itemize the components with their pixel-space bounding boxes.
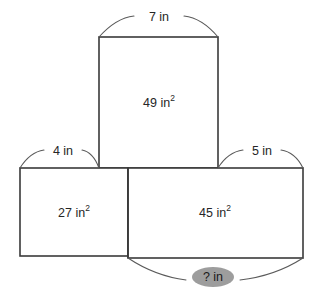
bottom-right-area-unit: in <box>216 206 226 220</box>
bottom-left-area-exponent: 2 <box>85 203 90 213</box>
bottom-right-area-exponent: 2 <box>226 203 231 213</box>
left-width-brace-right <box>82 150 99 168</box>
geometry-diagram: 7 in 4 in 5 in 49 in2 27 in2 45 in2 ? in <box>0 0 321 305</box>
top-area-unit: in <box>160 96 170 110</box>
diagram-canvas: 7 in 4 in 5 in 49 in2 27 in2 45 in2 ? in <box>0 0 321 305</box>
bottom-left-area-unit: in <box>75 206 85 220</box>
right-width-label: 5 in <box>252 144 272 158</box>
top-area-exponent: 2 <box>170 93 175 103</box>
top-area-value: 49 <box>143 96 157 110</box>
unknown-width-label: ? in <box>203 270 223 284</box>
top-width-label: 7 in <box>149 10 169 24</box>
bottom-unknown-brace-left <box>128 258 186 280</box>
right-width-brace-left <box>218 150 243 168</box>
top-width-brace-left <box>99 16 134 37</box>
bottom-left-area-value: 27 <box>58 206 72 220</box>
bottom-right-area-value: 45 <box>199 206 213 220</box>
bottom-unknown-brace-right <box>240 258 303 280</box>
left-width-label: 4 in <box>53 144 73 158</box>
left-width-brace-left <box>20 150 44 168</box>
right-width-brace-right <box>281 150 303 168</box>
top-width-brace-right <box>184 16 218 37</box>
